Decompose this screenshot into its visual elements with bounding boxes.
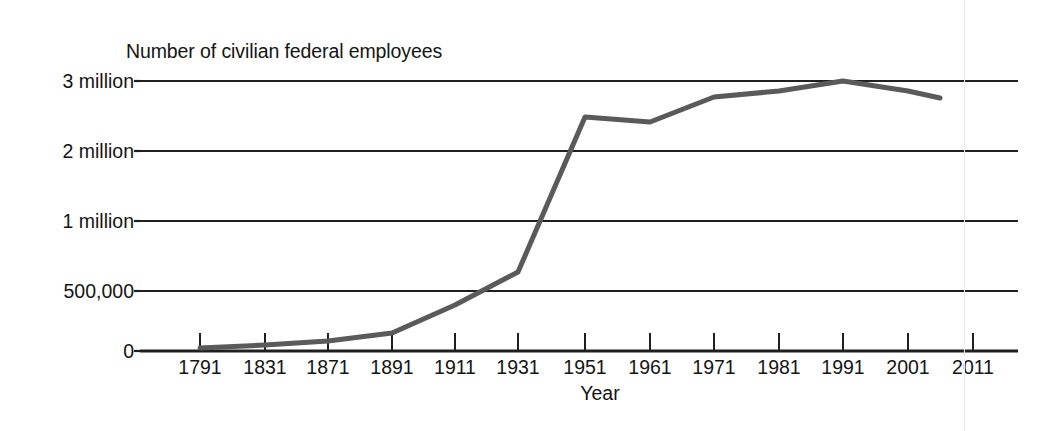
x-tick-label-1951: 1951 xyxy=(563,356,606,379)
x-tick-label-1981: 1981 xyxy=(757,356,800,379)
x-tick-label-2011: 2011 xyxy=(952,356,994,379)
gridlines xyxy=(140,81,1018,291)
page-scan-edge xyxy=(964,0,965,431)
y-tick-connectors xyxy=(134,81,140,351)
x-tick-label-1911: 1911 xyxy=(434,356,476,379)
x-axis-title-text: Year xyxy=(580,382,619,404)
x-tick-label-1891: 1891 xyxy=(370,356,413,379)
chart-figure: Number of civilian federal employees 0 5… xyxy=(0,0,1064,431)
x-tick-label-1991: 1991 xyxy=(821,356,864,379)
x-tick-label-1831: 1831 xyxy=(243,356,286,379)
data-series-line xyxy=(200,81,940,348)
x-tick-label-1971: 1971 xyxy=(692,356,735,379)
x-tick-label-1961: 1961 xyxy=(628,356,671,379)
x-tick-label-2001: 2001 xyxy=(886,356,929,379)
x-tick-label-1931: 1931 xyxy=(496,356,539,379)
x-axis-title: Year xyxy=(0,382,1064,405)
x-tick-label-1791: 1791 xyxy=(178,356,221,379)
x-tick-label-1871: 1871 xyxy=(306,356,349,379)
